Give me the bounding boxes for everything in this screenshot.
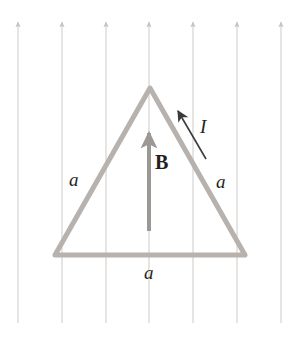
physics-diagram-figure: a a a I B: [0, 0, 306, 339]
current-label: I: [200, 117, 206, 136]
side-length-label-right: a: [216, 172, 226, 191]
side-length-label-bottom: a: [144, 263, 154, 282]
diagram-canvas: [0, 0, 306, 339]
side-length-label-left: a: [69, 170, 79, 189]
magnetic-field-label: B: [155, 152, 168, 172]
